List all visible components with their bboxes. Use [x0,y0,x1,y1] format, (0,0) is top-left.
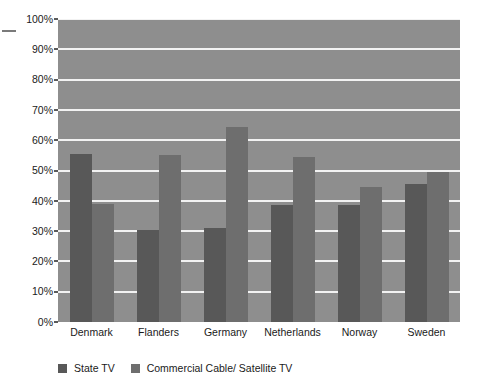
bar [360,187,382,322]
y-axis-tick: 60% [32,133,58,147]
x-axis-tick-label: Germany [192,327,259,338]
bar [405,184,427,322]
x-axis-tick-label: Denmark [58,327,125,338]
x-axis-tick-label: Sweden [393,327,460,338]
legend-swatch-icon [58,364,67,373]
legend-item: State TV [58,363,115,374]
x-axis: DenmarkFlandersGermanyNetherlandsNorwayS… [58,327,460,343]
bar [226,127,248,322]
bar [204,228,226,322]
bar [338,205,360,322]
y-axis: 0%10%20%30%40%50%60%70%80%90%100% [0,19,58,322]
bar [70,154,92,322]
y-axis-tick: 30% [32,224,58,238]
bar [159,155,181,322]
bar [427,172,449,322]
y-axis-tick: 90% [32,42,58,56]
plot-area [58,19,460,322]
bar [271,205,293,322]
y-axis-tick: 50% [32,164,58,178]
y-axis-tick: 40% [32,194,58,208]
legend-label: Commercial Cable/ Satellite TV [147,363,293,374]
bar-chart: 0%10%20%30%40%50%60%70%80%90%100% Denmar… [0,0,483,391]
bar [293,157,315,322]
y-axis-tick: 0% [38,315,58,329]
x-axis-tick-label: Norway [326,327,393,338]
y-axis-tick: 100% [26,12,58,26]
bars-layer [58,19,460,322]
legend-swatch-icon [131,364,140,373]
bar [137,230,159,322]
y-axis-tick: 80% [32,73,58,87]
legend-item: Commercial Cable/ Satellite TV [131,363,293,374]
y-axis-tick: 70% [32,103,58,117]
chart-legend: State TVCommercial Cable/ Satellite TV [58,361,308,375]
y-axis-tick: 10% [32,285,58,299]
y-axis-tick: 20% [32,254,58,268]
x-axis-tick-label: Flanders [125,327,192,338]
bar [92,204,114,322]
legend-label: State TV [74,363,115,374]
x-axis-tick-label: Netherlands [259,327,326,338]
